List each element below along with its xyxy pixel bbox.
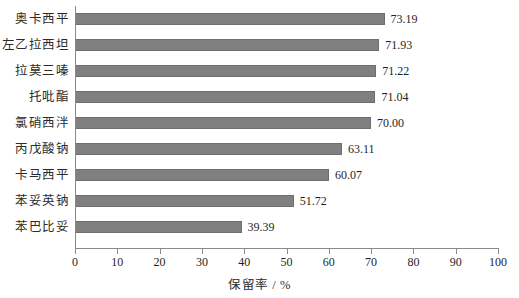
- bar-value-label: 71.22: [382, 58, 409, 84]
- bar-row: 奥卡西平73.19: [75, 6, 498, 32]
- bar-value-label: 73.19: [391, 6, 418, 32]
- category-label: 苯巴比妥: [15, 214, 69, 240]
- x-tick-mark: [75, 249, 76, 254]
- x-tick-mark: [329, 249, 330, 254]
- x-tick-label: 80: [407, 255, 419, 270]
- x-tick-label: 10: [111, 255, 123, 270]
- bar-value-label: 39.39: [248, 214, 275, 240]
- category-label: 丙戊酸钠: [15, 136, 69, 162]
- x-tick-label: 60: [323, 255, 335, 270]
- category-label: 奥卡西平: [15, 6, 69, 32]
- x-tick-label: 30: [196, 255, 208, 270]
- bar-row: 左乙拉西坦71.93: [75, 32, 498, 58]
- bar: [75, 117, 371, 129]
- bar-row: 拉莫三嗪71.22: [75, 58, 498, 84]
- x-tick-mark: [244, 249, 245, 254]
- x-tick-mark: [498, 249, 499, 254]
- category-label: 卡马西平: [15, 162, 69, 188]
- bar: [75, 169, 329, 181]
- category-label: 氯硝西泮: [15, 110, 69, 136]
- bar: [75, 65, 376, 77]
- x-tick-label: 40: [238, 255, 250, 270]
- retention-rate-bar-chart: 奥卡西平73.19左乙拉西坦71.93拉莫三嗪71.22托吡酯71.04氯硝西泮…: [0, 0, 519, 298]
- category-label: 左乙拉西坦: [2, 32, 70, 58]
- category-label: 苯妥英钠: [15, 188, 69, 214]
- bar: [75, 195, 294, 207]
- x-tick-mark: [287, 249, 288, 254]
- x-tick-mark: [413, 249, 414, 254]
- x-axis-title: 保留率 / %: [0, 274, 519, 293]
- x-tick-mark: [456, 249, 457, 254]
- bar-value-label: 71.04: [381, 84, 408, 110]
- bar-row: 氯硝西泮70.00: [75, 110, 498, 136]
- bar-row: 托吡酯71.04: [75, 84, 498, 110]
- y-axis-line: [75, 6, 76, 248]
- bar-value-label: 51.72: [300, 188, 327, 214]
- x-tick-label: 20: [154, 255, 166, 270]
- bar-row: 苯巴比妥39.39: [75, 214, 498, 240]
- bar: [75, 39, 379, 51]
- x-tick-mark: [371, 249, 372, 254]
- x-tick-mark: [202, 249, 203, 254]
- bar-value-label: 70.00: [377, 110, 404, 136]
- category-label: 托吡酯: [29, 84, 70, 110]
- bar-value-label: 71.93: [385, 32, 412, 58]
- bar-value-label: 60.07: [335, 162, 362, 188]
- x-tick-label: 0: [72, 255, 78, 270]
- bar-row: 卡马西平60.07: [75, 162, 498, 188]
- bar: [75, 91, 375, 103]
- x-tick-label: 50: [281, 255, 293, 270]
- plot-area: 奥卡西平73.19左乙拉西坦71.93拉莫三嗪71.22托吡酯71.04氯硝西泮…: [75, 6, 498, 248]
- bar-value-label: 63.11: [348, 136, 375, 162]
- bar: [75, 13, 385, 25]
- x-tick-label: 70: [365, 255, 377, 270]
- x-tick-label: 90: [450, 255, 462, 270]
- bar-row: 丙戊酸钠63.11: [75, 136, 498, 162]
- category-label: 拉莫三嗪: [15, 58, 69, 84]
- x-tick-label: 100: [489, 255, 507, 270]
- bar: [75, 143, 342, 155]
- x-tick-mark: [117, 249, 118, 254]
- x-tick-mark: [160, 249, 161, 254]
- bar: [75, 221, 242, 233]
- bar-row: 苯妥英钠51.72: [75, 188, 498, 214]
